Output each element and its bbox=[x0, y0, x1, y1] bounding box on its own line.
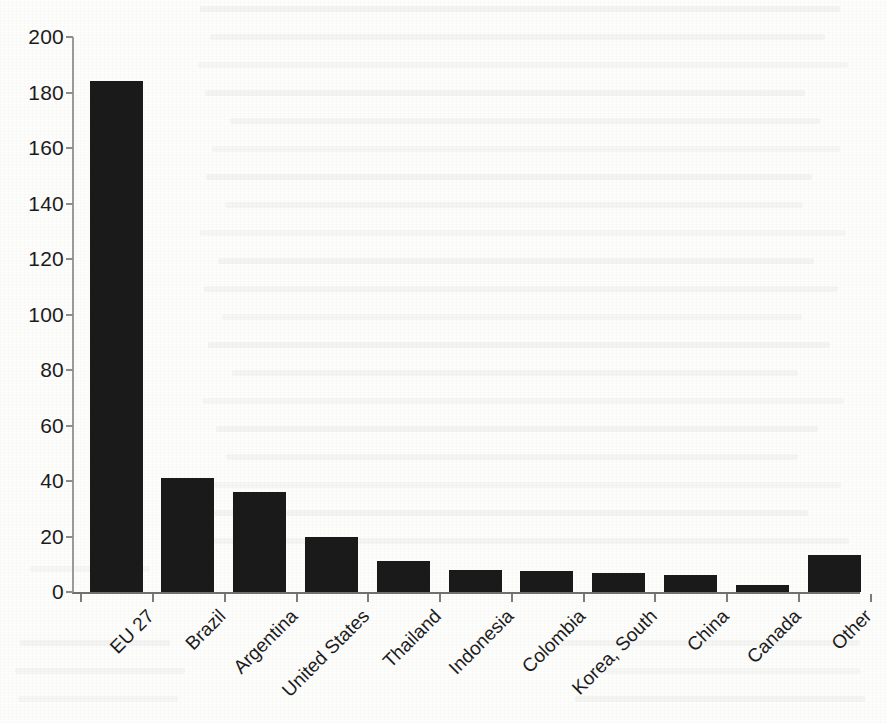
x-axis-tick-label: Colombia bbox=[518, 606, 588, 676]
x-axis-tick bbox=[367, 594, 369, 602]
y-axis-tick-label: 40 bbox=[18, 470, 64, 491]
y-axis-tick bbox=[66, 425, 73, 427]
x-axis-tick bbox=[296, 594, 298, 602]
x-axis-tick bbox=[654, 594, 656, 602]
x-axis-tick bbox=[152, 594, 154, 602]
bar bbox=[736, 585, 789, 592]
y-axis-tick bbox=[66, 314, 73, 316]
x-axis-tick bbox=[439, 594, 441, 602]
y-axis-tick-label: 60 bbox=[18, 415, 64, 436]
bar bbox=[808, 555, 861, 592]
bar-chart: 020406080100120140160180200EU 27BrazilAr… bbox=[0, 0, 887, 723]
bar bbox=[305, 537, 358, 593]
x-axis-tick bbox=[870, 594, 872, 602]
y-axis-tick-label: 80 bbox=[18, 359, 64, 380]
x-axis-tick-label: China bbox=[683, 606, 732, 655]
x-axis-tick bbox=[511, 594, 513, 602]
x-axis-tick bbox=[583, 594, 585, 602]
x-axis-tick-label: Indonesia bbox=[445, 606, 517, 678]
y-axis-tick bbox=[66, 480, 73, 482]
bar bbox=[377, 561, 430, 592]
bar bbox=[520, 571, 573, 592]
y-axis-tick-label: 0 bbox=[18, 581, 64, 602]
bar bbox=[449, 570, 502, 592]
x-axis-tick bbox=[798, 594, 800, 602]
chart-page: 020406080100120140160180200EU 27BrazilAr… bbox=[0, 0, 887, 723]
bar bbox=[161, 478, 214, 592]
y-axis-tick bbox=[66, 36, 73, 38]
y-axis-tick bbox=[66, 536, 73, 538]
x-axis-tick-label: Canada bbox=[743, 606, 804, 667]
bar bbox=[233, 492, 286, 592]
y-axis-tick bbox=[66, 258, 73, 260]
x-axis-tick-label: Thailand bbox=[380, 606, 445, 671]
y-axis-tick bbox=[66, 92, 73, 94]
y-axis-tick-label: 120 bbox=[18, 248, 64, 269]
y-axis-tick-label: 20 bbox=[18, 526, 64, 547]
y-axis-tick bbox=[66, 591, 73, 593]
x-axis-tick bbox=[224, 594, 226, 602]
y-axis-tick-label: 160 bbox=[18, 137, 64, 158]
y-axis-tick-label: 140 bbox=[18, 193, 64, 214]
x-axis-tick-label: Argentina bbox=[230, 606, 301, 677]
y-axis-tick bbox=[66, 369, 73, 371]
bar bbox=[592, 573, 645, 592]
x-axis-tick bbox=[726, 594, 728, 602]
x-axis-tick bbox=[80, 594, 82, 602]
x-axis-tick-label: Brazil bbox=[182, 606, 229, 653]
bar bbox=[90, 81, 143, 592]
y-axis-tick bbox=[66, 147, 73, 149]
x-axis-line bbox=[72, 592, 860, 594]
bar bbox=[664, 575, 717, 592]
x-axis-tick-label: Other bbox=[828, 606, 875, 653]
y-axis-tick-label: 200 bbox=[18, 26, 64, 47]
y-axis-tick-label: 180 bbox=[18, 82, 64, 103]
y-axis-tick-label: 100 bbox=[18, 304, 64, 325]
x-axis-tick-label: EU 27 bbox=[107, 606, 158, 657]
y-axis-tick bbox=[66, 203, 73, 205]
